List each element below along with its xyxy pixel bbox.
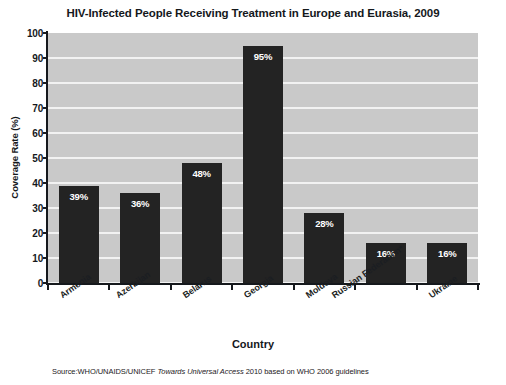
x-axis-title: Country bbox=[0, 338, 506, 350]
source-suffix: 2010 based on WHO 2006 guidelines bbox=[244, 367, 369, 376]
y-tick-label: 100 bbox=[19, 28, 43, 39]
x-tick-mark bbox=[416, 284, 418, 290]
y-tick-label: 10 bbox=[19, 253, 43, 264]
chart-figure: HIV-Infected People Receiving Treatment … bbox=[0, 0, 506, 385]
bar-armenia[interactable]: 39% bbox=[59, 186, 99, 284]
x-tick-mark bbox=[108, 284, 110, 290]
y-axis-tick-labels: 100 90 80 70 60 50 40 30 20 10 0 bbox=[16, 0, 43, 385]
y-tick-label: 40 bbox=[19, 178, 43, 189]
bar-value-label: 39% bbox=[59, 191, 99, 202]
plot-area: 39% 36% 48% 95% 28% 16% 16% bbox=[48, 33, 478, 283]
bar-value-label: 48% bbox=[182, 168, 222, 179]
y-tick-label: 60 bbox=[19, 128, 43, 139]
source-publication-title: Towards Universal Access bbox=[157, 367, 243, 376]
x-tick-mark bbox=[170, 284, 172, 290]
y-axis-line bbox=[46, 31, 48, 285]
x-tick-mark bbox=[47, 284, 49, 290]
bar-georgia[interactable]: 95% bbox=[243, 46, 283, 284]
y-tick-label: 70 bbox=[19, 103, 43, 114]
source-prefix: Source:WHO/UNAIDS/UNICEF bbox=[52, 367, 157, 376]
y-tick-label: 30 bbox=[19, 203, 43, 214]
bar-value-label: 16% bbox=[427, 248, 467, 259]
x-tick-mark bbox=[293, 284, 295, 290]
y-tick-label: 80 bbox=[19, 78, 43, 89]
chart-title: HIV-Infected People Receiving Treatment … bbox=[0, 7, 506, 19]
source-note: Source:WHO/UNAIDS/UNICEF Towards Univers… bbox=[52, 367, 369, 376]
x-tick-mark bbox=[231, 284, 233, 290]
bar-value-label: 28% bbox=[304, 218, 344, 229]
bar-value-label: 36% bbox=[120, 198, 160, 209]
y-tick-label: 20 bbox=[19, 228, 43, 239]
x-tick-mark bbox=[477, 284, 479, 290]
bar-belarus[interactable]: 48% bbox=[182, 163, 222, 283]
y-tick-label: 0 bbox=[19, 278, 43, 289]
bar-azerbijan[interactable]: 36% bbox=[120, 193, 160, 283]
y-tick-label: 90 bbox=[19, 53, 43, 64]
bar-value-label: 95% bbox=[243, 51, 283, 62]
y-tick-label: 50 bbox=[19, 153, 43, 164]
bar-moldova[interactable]: 28% bbox=[304, 213, 344, 283]
